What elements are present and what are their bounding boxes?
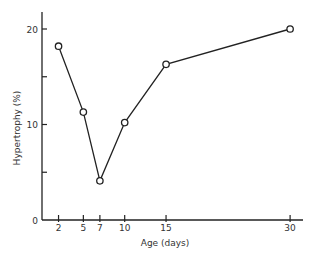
x-tick-label: 7 [97,223,103,233]
data-point-marker [122,119,128,125]
x-tick-label: 30 [284,223,296,233]
y-tick-label: 20 [27,25,39,35]
line-chart: 01020257101530 Age (days) Hypertrophy (%… [0,0,311,258]
data-point-marker [80,109,86,115]
x-tick-label: 2 [56,223,62,233]
x-tick-label: 15 [160,223,171,233]
y-tick-label: 10 [27,120,39,130]
data-points [55,26,293,184]
data-point-marker [97,178,103,184]
data-point-marker [163,61,169,67]
x-tick-label: 5 [80,223,86,233]
y-axis-label: Hypertrophy (%) [12,91,22,166]
data-point-marker [287,26,293,32]
series-line [59,29,291,181]
chart-axes: 01020257101530 [27,12,303,233]
y-tick-label: 0 [32,216,38,226]
x-tick-label: 10 [119,223,131,233]
data-point-marker [55,43,61,49]
x-axis-label: Age (days) [141,238,190,248]
data-line [59,29,291,181]
